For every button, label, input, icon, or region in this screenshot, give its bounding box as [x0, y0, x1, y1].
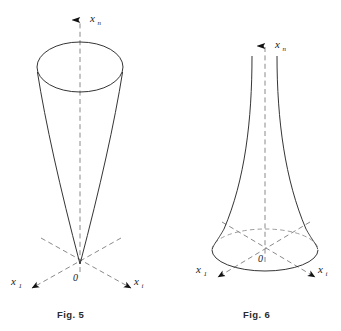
fig5-label-xi-sub: i — [142, 282, 144, 290]
fig6-caption: Fig. 6 — [243, 309, 270, 320]
fig6-origin-label: 0 — [258, 253, 263, 264]
fig6-left-generator — [224, 56, 252, 229]
figures-svg: x n x 1 x i 0 Fig. 5 x n — [0, 0, 341, 331]
fig5-right-generator — [80, 72, 123, 264]
fig6-label-xi-base: x — [317, 263, 323, 275]
fig5-label-xn-sub: n — [98, 19, 102, 27]
fig5-label-x1-sub: 1 — [19, 282, 23, 290]
fig6-left-base-join — [212, 229, 224, 249]
fig5-left-generator — [37, 72, 80, 264]
fig5-label-x1-base: x — [10, 275, 16, 287]
fig6-label-x1-sub: 1 — [204, 270, 208, 278]
fig5-axis-xi — [41, 238, 131, 288]
fig5-origin-label: 0 — [73, 272, 78, 283]
fig6-label-xi-sub: i — [326, 270, 328, 278]
fig6-right-base-join — [306, 229, 318, 249]
fig6-label-xn-base: x — [274, 38, 280, 50]
fig5-caption: Fig. 5 — [57, 309, 85, 320]
fig5-label-xn-base: x — [89, 12, 95, 24]
fig6-axis-xi — [222, 222, 315, 277]
fig6-label-x1-base: x — [195, 263, 201, 275]
fig6-axis-x1 — [218, 222, 310, 277]
fig6-group: x n x 1 x i 0 Fig. 6 — [195, 38, 328, 320]
fig5-group: x n x 1 x i 0 Fig. 5 — [10, 12, 144, 320]
fig6-right-generator — [277, 56, 306, 229]
fig6-label-xn-sub: n — [283, 45, 287, 53]
figure-plate: x n x 1 x i 0 Fig. 5 x n — [0, 0, 341, 331]
fig5-label-xi-base: x — [133, 275, 139, 287]
